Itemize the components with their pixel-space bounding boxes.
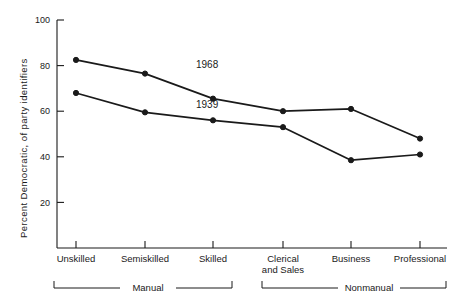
y-tick-label-80: 80: [40, 61, 50, 71]
y-axis-title: Percent Democratic, of party identifiers: [18, 58, 29, 238]
x-label-unskilled: Unskilled: [57, 253, 96, 264]
group-bracket-nonmanual-right: [400, 281, 446, 288]
group-label-nonmanual: Nonmanual: [345, 282, 394, 293]
data-point-1939-semiskilled: [142, 110, 147, 115]
x-label-skilled: Skilled: [199, 253, 227, 264]
chart-figure: Percent Democratic, of party identifiers…: [0, 0, 468, 301]
line-chart-canvas: Percent Democratic, of party identifiers…: [0, 0, 468, 301]
series-label-1968: 1968: [196, 59, 219, 70]
data-point-1939-business: [348, 158, 353, 163]
data-point-1968-semiskilled: [142, 71, 147, 76]
data-point-1939-professional: [417, 152, 422, 157]
series-line-1968: [76, 60, 420, 139]
x-label-business: Business: [332, 253, 371, 264]
data-point-1939-skilled: [210, 118, 215, 123]
data-point-1968-business: [348, 106, 353, 111]
data-point-1968-clerical-and-sales: [280, 109, 285, 114]
group-bracket-manual-left: [54, 281, 120, 288]
y-tick-label-60: 60: [40, 106, 50, 116]
series-label-1939: 1939: [196, 99, 219, 110]
y-tick-label-100: 100: [35, 15, 50, 25]
group-bracket-nonmanual-left: [262, 281, 338, 288]
x-label-clerical: Clerical: [267, 253, 299, 264]
y-tick-label-20: 20: [40, 198, 50, 208]
data-point-1968-unskilled: [73, 57, 78, 62]
data-point-1939-clerical-and-sales: [280, 125, 285, 130]
x-label-professional: Professional: [394, 253, 446, 264]
data-point-1968-professional: [417, 136, 422, 141]
data-point-1939-unskilled: [73, 90, 78, 95]
group-label-manual: Manual: [132, 282, 163, 293]
group-bracket-manual-right: [176, 281, 232, 288]
x-label-semiskilled: Semiskilled: [121, 253, 169, 264]
series-line-1939: [76, 93, 420, 160]
y-tick-label-40: 40: [40, 152, 50, 162]
x-label-and-sales: and Sales: [262, 264, 305, 275]
